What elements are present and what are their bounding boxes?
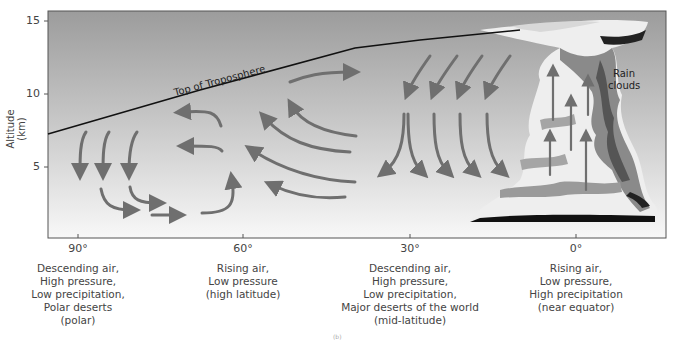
y-tick-10: 10 (20, 87, 40, 100)
atmospheric-circulation-diagram: Top of Troposphere Rain clouds Altitude … (0, 0, 676, 341)
y-axis-label: Altitude (km) (5, 99, 27, 159)
zone-description-high-latitude: Rising air, Low pressure (high latitude) (188, 262, 298, 301)
y-tick-5: 5 (20, 160, 40, 173)
x-tick-0: 0° (556, 242, 596, 255)
y-axis-ticks (44, 21, 48, 167)
zone-description-mid-latitude: Descending air, High pressure, Low preci… (340, 262, 480, 327)
zone-description-equator: Rising air, Low pressure, High precipita… (516, 262, 636, 314)
x-tick-60: 60° (223, 242, 263, 255)
rain-clouds-label-2: clouds (608, 80, 640, 91)
y-tick-15: 15 (20, 14, 40, 27)
x-tick-90: 90° (58, 242, 98, 255)
x-tick-30: 30° (390, 242, 430, 255)
zone-description-polar: Descending air, High pressure, Low preci… (18, 262, 138, 327)
panel-tag: (b) (333, 333, 342, 340)
rain-clouds-label-1: Rain (613, 68, 635, 79)
